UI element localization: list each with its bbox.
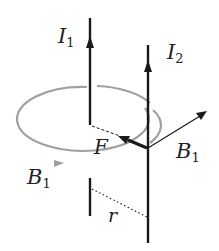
wire-2	[144, 45, 152, 243]
force-vector	[118, 136, 147, 148]
field-left-label: B1	[26, 165, 51, 191]
distance-label: r	[108, 204, 119, 226]
parallel-currents-diagram: I1 I2 F B1 B1 r	[0, 0, 219, 251]
force-label: F	[93, 135, 109, 159]
wire-1	[86, 18, 94, 216]
b1-arrow-icon	[196, 111, 207, 120]
current-1-arrow-icon	[86, 36, 94, 48]
current-1-label: I1	[57, 24, 75, 50]
field-right-label: B1	[175, 139, 200, 165]
field-direction-arrow-icon	[54, 160, 64, 167]
distance-dotted-line	[92, 189, 147, 217]
current-2-label: I2	[166, 40, 184, 66]
current-2-arrow-icon	[144, 60, 152, 72]
diagram-canvas: I1 I2 F B1 B1 r	[0, 0, 219, 251]
